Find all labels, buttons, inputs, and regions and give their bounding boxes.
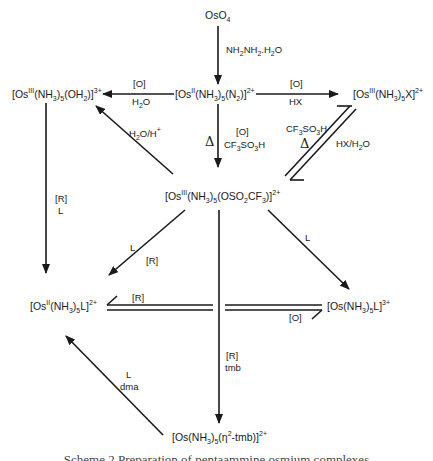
condition-to-aqua-bottom: H2O xyxy=(132,96,150,108)
condition-tmb-1: [R] xyxy=(226,350,238,362)
condition-halide-forward-delta: Δ xyxy=(300,138,309,150)
condition-triflate-bottom: CF3SO3H xyxy=(224,139,265,151)
redox-upper-barb xyxy=(107,296,117,305)
condition-to-halide-bottom: HX xyxy=(289,96,302,108)
arrow-tmb-to-os2l xyxy=(66,336,163,435)
arrow-triflate-to-aqua xyxy=(96,106,173,174)
compound-halide: [OsIII(NH3)5X]2+ xyxy=(353,88,423,100)
condition-aqua-reduce-1: [R] xyxy=(55,193,67,205)
compound-dinitrogen: [OsII(NH3)5(N2)]2+ xyxy=(175,88,255,100)
compound-oso4: OsO4 xyxy=(205,9,231,21)
compound-tmb: [Os(NH3)5(η2-tmb)]2+ xyxy=(172,431,267,443)
condition-triflate-to-os2-1: L xyxy=(130,242,135,254)
condition-hydrazine: NH2NH2.H2O xyxy=(226,44,282,56)
arrow-triflate-to-os3l xyxy=(268,210,349,289)
compound-aqua: [OsIII(NH3)5(OH2)]3+ xyxy=(12,88,102,100)
condition-to-halide-top: [O] xyxy=(290,78,303,90)
condition-dma-1: L xyxy=(126,369,131,381)
condition-aqua-reduce-2: L xyxy=(58,205,63,217)
condition-halide-reverse: HX/H2O xyxy=(336,138,370,150)
condition-to-aqua-top: [O] xyxy=(133,78,146,90)
scheme-caption: Scheme 2 Preparation of pentaammine osmi… xyxy=(0,452,433,461)
reaction-scheme-arrows xyxy=(0,0,433,461)
redox-lower-barb xyxy=(312,310,322,319)
condition-triflate-top: [O] xyxy=(236,126,249,138)
compound-os3-l: [Os(NH3)5L]3+ xyxy=(327,300,390,312)
condition-halide-forward: CF3SO3H xyxy=(286,123,327,135)
condition-hydrolysis: H2O/H+ xyxy=(129,128,161,140)
condition-triflate-delta: Δ xyxy=(205,136,214,148)
condition-triflate-to-os2-2: [R] xyxy=(146,255,158,267)
compound-os2-l: [OsII(NH3)5L]2+ xyxy=(30,300,97,312)
compound-triflate: [OsIII(NH3)5(OSO2CF3)]2+ xyxy=(165,190,280,202)
condition-redox-top: [R] xyxy=(132,292,144,304)
condition-tmb-2: tmb xyxy=(225,362,241,374)
condition-triflate-to-os3: L xyxy=(305,232,310,244)
condition-redox-bottom: [O] xyxy=(289,312,302,324)
condition-dma-2: dma xyxy=(120,381,138,393)
